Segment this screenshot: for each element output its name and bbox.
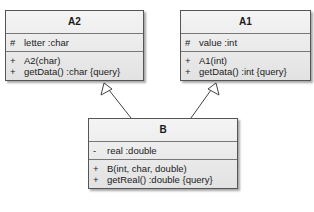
operation-row: + A1(int) <box>181 55 310 66</box>
operation-text: getReal() :double {query} <box>103 174 213 185</box>
operations-section: + A1(int) + getData() :int {query} <box>181 52 310 80</box>
operation-text: B(int, char, double) <box>103 163 187 174</box>
attribute-row: # letter :char <box>6 37 143 48</box>
attribute-row: # value :int <box>181 37 310 48</box>
attribute-text: letter :char <box>20 37 69 48</box>
visibility: # <box>181 37 195 48</box>
visibility: + <box>6 66 20 77</box>
class-a1[interactable]: A1 # value :int + A1(int) + getData() :i… <box>180 10 311 81</box>
inheritance-triangle-icon <box>208 83 219 95</box>
attributes-section: # letter :char <box>6 34 143 52</box>
operation-row: + getData() :int {query} <box>181 66 310 77</box>
generalization-line-b-a2 <box>109 90 131 118</box>
attributes-section: # value :int <box>181 34 310 52</box>
visibility: + <box>181 66 195 77</box>
operation-row: + A2(char) <box>6 55 143 66</box>
attribute-row: - real :double <box>89 145 237 156</box>
operation-row: + getReal() :double {query} <box>89 174 237 185</box>
visibility: + <box>181 55 195 66</box>
generalization-line-b-a1 <box>191 90 211 118</box>
operation-text: A1(int) <box>195 55 227 66</box>
class-name: A2 <box>6 11 143 34</box>
visibility: - <box>89 145 103 156</box>
visibility: + <box>89 163 103 174</box>
operation-text: getData() :char {query} <box>20 66 120 77</box>
visibility: + <box>89 174 103 185</box>
operation-row: + B(int, char, double) <box>89 163 237 174</box>
visibility: + <box>6 55 20 66</box>
inheritance-triangle-icon <box>101 83 112 95</box>
operation-text: getData() :int {query} <box>195 66 287 77</box>
class-name: A1 <box>181 11 310 34</box>
attributes-section: - real :double <box>89 142 237 160</box>
class-b[interactable]: B - real :double + B(int, char, double) … <box>88 118 238 189</box>
class-name: B <box>89 119 237 142</box>
attribute-text: real :double <box>103 145 157 156</box>
attribute-text: value :int <box>195 37 237 48</box>
operation-row: + getData() :char {query} <box>6 66 143 77</box>
visibility: # <box>6 37 20 48</box>
class-a2[interactable]: A2 # letter :char + A2(char) + getData()… <box>5 10 144 81</box>
operations-section: + B(int, char, double) + getReal() :doub… <box>89 160 237 188</box>
operation-text: A2(char) <box>20 55 60 66</box>
operations-section: + A2(char) + getData() :char {query} <box>6 52 143 80</box>
